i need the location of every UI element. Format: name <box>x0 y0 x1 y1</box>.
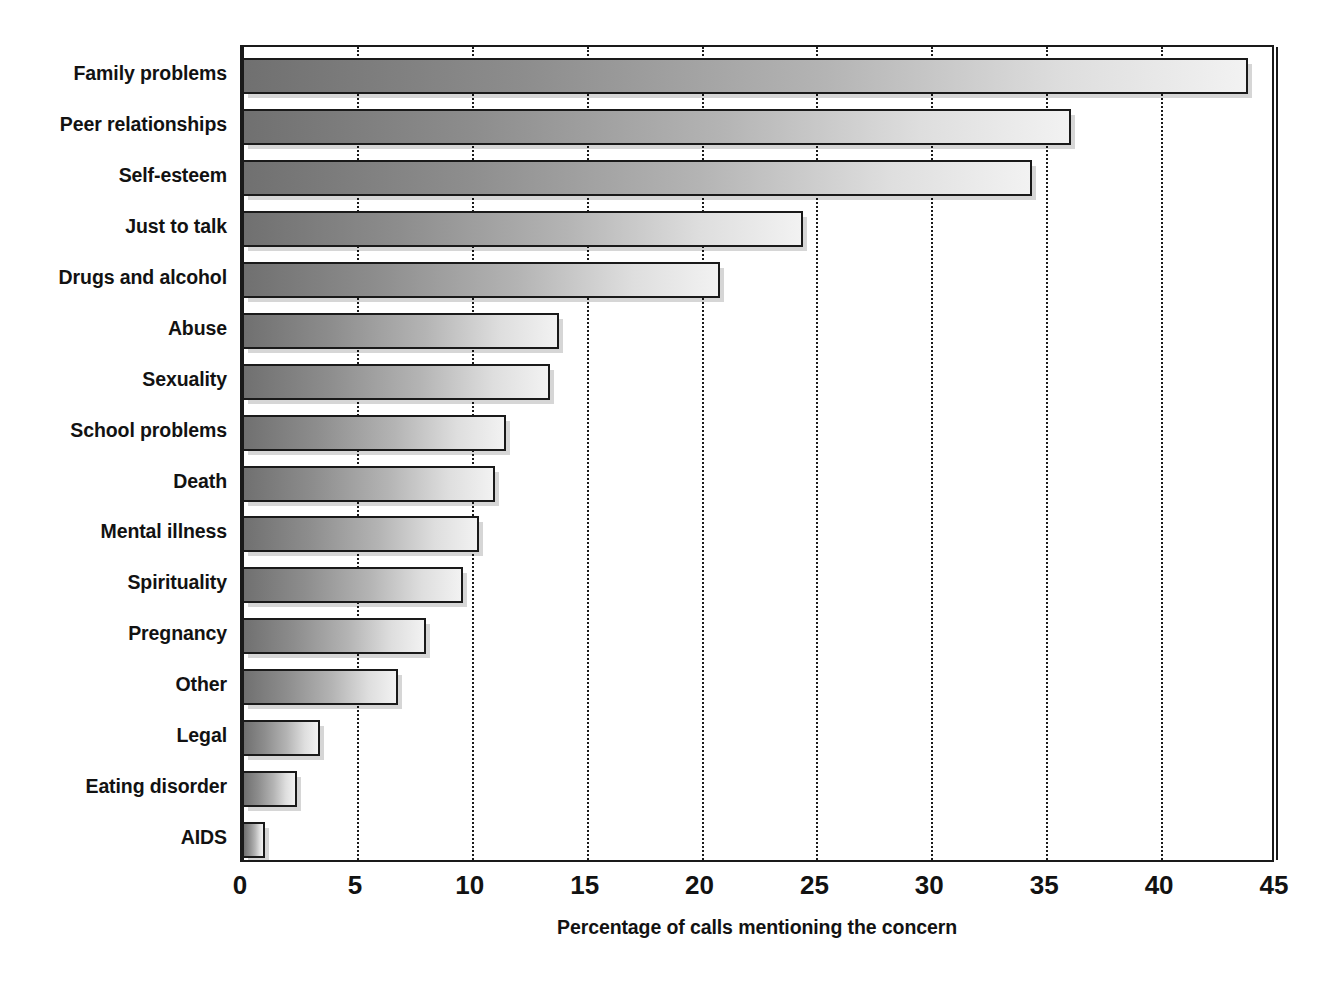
category-label: Mental illness <box>0 522 227 542</box>
bar <box>242 415 506 451</box>
x-tick-label: 10 <box>455 872 484 898</box>
bar <box>242 160 1032 196</box>
bar <box>242 771 297 807</box>
x-tick-label: 20 <box>685 872 714 898</box>
x-tick-label: 30 <box>915 872 944 898</box>
x-tick-label: 45 <box>1260 872 1289 898</box>
bar-series <box>242 47 1272 860</box>
category-label: Self-esteem <box>0 166 227 186</box>
bar <box>242 109 1071 145</box>
bar <box>242 567 463 603</box>
gridline-45 <box>1276 47 1278 860</box>
category-label: Pregnancy <box>0 624 227 644</box>
category-label: Death <box>0 472 227 492</box>
bar <box>242 618 426 654</box>
x-tick-label: 15 <box>570 872 599 898</box>
x-axis-line <box>240 860 1274 862</box>
category-label: AIDS <box>0 828 227 848</box>
bar <box>242 466 495 502</box>
category-label: Legal <box>0 726 227 746</box>
x-tick-label: 0 <box>233 872 247 898</box>
bar <box>242 58 1248 94</box>
bar <box>242 313 559 349</box>
x-axis-title: Percentage of calls mentioning the conce… <box>240 916 1274 939</box>
category-label: Peer relationships <box>0 115 227 135</box>
category-label: Family problems <box>0 64 227 84</box>
plot-area <box>240 45 1274 860</box>
x-tick-label: 25 <box>800 872 829 898</box>
x-tick-label: 5 <box>348 872 362 898</box>
bar <box>242 720 320 756</box>
bar-chart: Family problemsPeer relationshipsSelf-es… <box>0 0 1330 989</box>
category-label: Drugs and alcohol <box>0 268 227 288</box>
bar <box>242 211 803 247</box>
bar <box>242 516 479 552</box>
category-label: Abuse <box>0 319 227 339</box>
category-label: Spirituality <box>0 573 227 593</box>
bar <box>242 822 265 858</box>
category-axis: Family problemsPeer relationshipsSelf-es… <box>0 45 227 860</box>
bar <box>242 669 398 705</box>
category-label: School problems <box>0 421 227 441</box>
category-label: Eating disorder <box>0 777 227 797</box>
category-label: Other <box>0 675 227 695</box>
x-axis-tick-labels: 051015202530354045 <box>240 872 1274 904</box>
category-label: Just to talk <box>0 217 227 237</box>
x-tick-label: 40 <box>1145 872 1174 898</box>
bar <box>242 262 720 298</box>
bar <box>242 364 550 400</box>
category-label: Sexuality <box>0 370 227 390</box>
x-tick-label: 35 <box>1030 872 1059 898</box>
